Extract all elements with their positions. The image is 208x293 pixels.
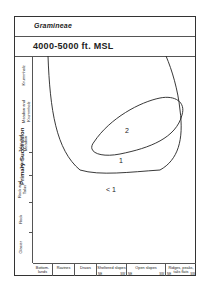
x-label-text: Open slopes [135, 266, 156, 270]
contour-label-less-than-1: < 1 [106, 186, 116, 193]
taxon-row: Gramineae [15, 17, 195, 37]
aspect-ne: NE [167, 272, 171, 276]
contour-label-1: 1 [119, 157, 123, 164]
aspect-sw: SW [190, 272, 195, 276]
y-label-krummholz: Krummholz [22, 62, 27, 88]
y-label-rock: Rock [19, 209, 24, 229]
x-label-text: Bottom-lands [36, 266, 49, 274]
x-axis-row: Bottom-lands Ravines Draws Sheltered slo… [33, 263, 196, 276]
aspect-sw: SW [159, 272, 164, 276]
contour-outer [48, 56, 181, 173]
x-label-ravines: Ravines [53, 264, 75, 276]
x-label-sheltered-slopes: Sheltered slopes NE SW [97, 264, 127, 276]
y-axis-column: Primary Succession Glacier Rock Rock and… [15, 57, 33, 263]
aspect-sw: SW [120, 272, 125, 276]
y-label-talus: Talus [20, 155, 25, 173]
elevation-label: 4000-5000 ft. MSL [33, 41, 114, 51]
contour-inner [92, 97, 183, 155]
x-label-bottomlands: Bottom-lands [33, 264, 53, 276]
y-label-talus-meadow: Talus and Meadow [19, 132, 28, 156]
contour-plot [32, 56, 196, 262]
x-label-text: Ravines [57, 266, 71, 270]
aspect-ne: NE [98, 272, 102, 276]
contour-label-2: 2 [125, 127, 129, 134]
x-label-draws: Draws [75, 264, 97, 276]
x-label-text: Draws [80, 266, 91, 270]
y-label-glacier: Glacier [19, 235, 24, 259]
y-label-rock-talus: Rock and Talus [18, 179, 27, 201]
aspect-ne: NE [128, 272, 132, 276]
y-label-meadow-krummholz: Meadow and Krummholz [22, 97, 31, 127]
elevation-row: 4000-5000 ft. MSL [15, 37, 195, 57]
x-label-open-slopes: Open slopes NE SW [127, 264, 166, 276]
taxon-title: Gramineae [34, 22, 72, 29]
x-label-text: Sheltered slopes [97, 266, 125, 270]
x-label-ridges: Ridges, peaks, talis flats NE SW [166, 264, 196, 276]
